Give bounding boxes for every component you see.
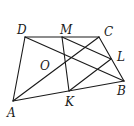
label-O: O <box>40 59 50 73</box>
segments <box>13 37 124 101</box>
label-L: L <box>116 50 125 64</box>
label-A: A <box>6 106 16 120</box>
segment-ML <box>62 37 111 59</box>
label-K: K <box>64 95 75 109</box>
label-M: M <box>59 23 73 37</box>
geometry-diagram: D M C L O B K A <box>0 0 134 126</box>
segment-DA <box>13 37 25 101</box>
label-C: C <box>104 25 113 39</box>
label-D: D <box>16 23 27 37</box>
segment-KL <box>69 59 111 91</box>
label-B: B <box>116 84 126 98</box>
segment-AC <box>13 37 99 101</box>
